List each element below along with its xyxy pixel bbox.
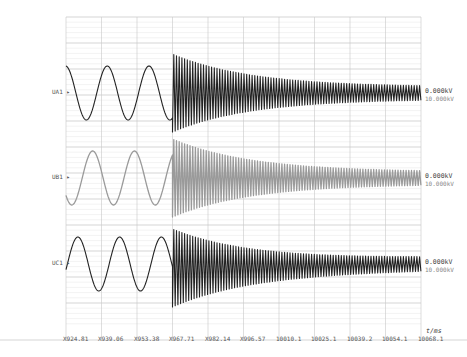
channel-label-uc1: UC1 ▸ — [52, 259, 70, 266]
uc1-value: 0.000kV — [425, 259, 454, 266]
channel-label-ua1: UA1 ▸ — [52, 88, 70, 95]
channel-value-ua1: 0.000kV 10.000kV — [425, 88, 454, 102]
channel-label-ub1: UB1 ▸ — [52, 173, 70, 180]
traces — [66, 55, 421, 307]
ua1-scale: 10.000kV — [425, 95, 454, 102]
ub1-value: 0.000kV — [425, 173, 454, 180]
x-tick: 10039.2 — [347, 335, 372, 342]
x-tick: X939.06 — [98, 335, 123, 342]
x-tick: X996.57 — [240, 335, 265, 342]
x-tick: X982.14 — [205, 335, 230, 342]
x-tick: 10068.1 — [418, 335, 443, 342]
x-tick: X953.38 — [134, 335, 159, 342]
x-tick: 10010.1 — [276, 335, 301, 342]
x-tick: 10054.1 — [382, 335, 407, 342]
x-tick: 10025.1 — [311, 335, 336, 342]
uc1-scale: 10.000kV — [425, 266, 454, 273]
channel-value-uc1: 0.000kV 10.000kV — [425, 259, 454, 273]
ub1-scale: 10.000kV — [425, 180, 454, 187]
x-tick: X924.81 — [63, 335, 88, 342]
x-tick: X967.71 — [169, 335, 194, 342]
x-axis-unit: t/ms — [426, 327, 442, 335]
channel-value-ub1: 0.000kV 10.000kV — [425, 173, 454, 187]
ua1-value: 0.000kV — [425, 88, 454, 95]
